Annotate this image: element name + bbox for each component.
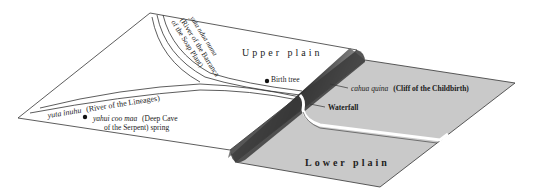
spring-label-line2: of the Serpent) spring [104, 123, 169, 132]
birth-tree-label: Birth tree [271, 75, 300, 84]
spring-label-line1: yahui coo maa (Deep Cave [92, 114, 178, 123]
upper-plain-label: Upper plain [242, 47, 323, 58]
cliff-label: cahua quina (Cliff of the Childbirth) [351, 84, 469, 93]
spring-marker [83, 115, 87, 119]
birth-tree-marker [265, 79, 269, 83]
waterfall-label: Waterfall [328, 103, 358, 112]
lower-plain-label: Lower plain [305, 157, 390, 168]
terrain-diagram: Upper plain Lower plain yuta ndua numa (… [0, 0, 533, 194]
